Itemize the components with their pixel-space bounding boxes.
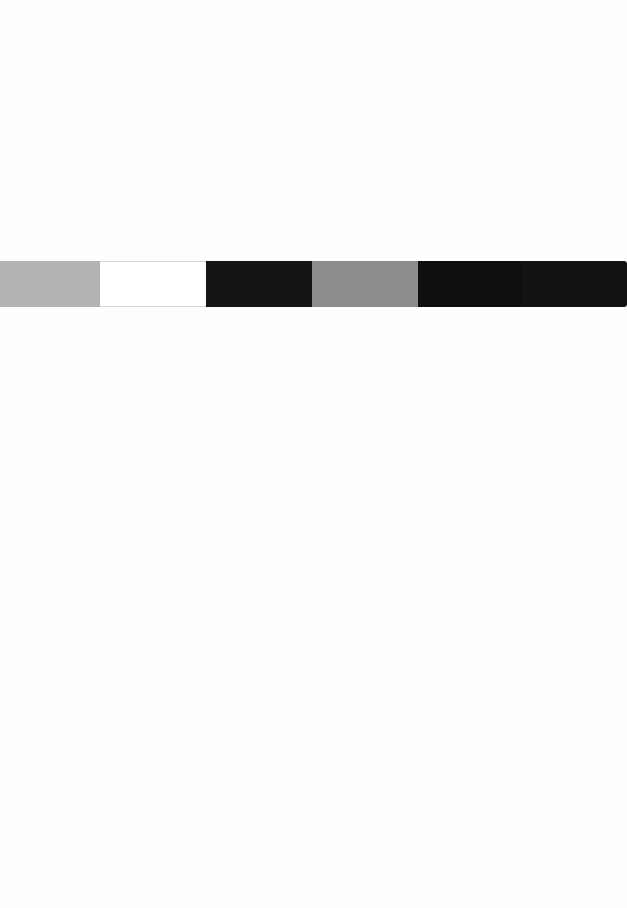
- swatch-black-3: [522, 261, 627, 307]
- swatch-medium-gray: [312, 261, 418, 307]
- swatch-black-2: [418, 261, 522, 307]
- swatch-white: [100, 261, 206, 307]
- swatch-black-1: [206, 261, 312, 307]
- blank-page: [0, 0, 627, 908]
- swatch-light-gray: [0, 261, 100, 307]
- color-swatch-strip: [0, 261, 627, 307]
